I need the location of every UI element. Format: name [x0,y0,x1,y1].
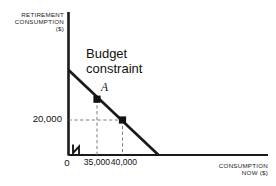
data-point-marker-b [119,116,126,123]
x-axis-title: CONSUMPTIONNOW ($) [206,163,268,177]
budget-constraint-annotation: Budgetconstraint [86,47,142,77]
budget-constraint-annotation-line1: Budget [86,46,127,61]
x-axis-tick-label-40000: 40,000 [105,158,143,168]
data-point-a-label: A [101,81,108,94]
axis-break-icon [73,145,79,156]
y-axis-tick-label-20000: 20,000 [18,114,62,125]
y-axis-title: RETIREMENTCONSUMPTION($) [8,12,64,33]
budget-constraint-line [69,70,159,155]
origin-tick-label: 0 [62,158,72,169]
data-point-marker-a [93,96,100,103]
budget-constraint-annotation-line2: constraint [86,61,142,76]
budget-constraint-figure: RETIREMENTCONSUMPTION($) CONSUMPTIONNOW … [0,0,276,186]
